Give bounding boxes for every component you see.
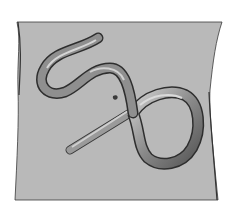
abdomen-illustration: Medical illustration of an abdomen with …	[0, 0, 230, 211]
illustration-svg	[0, 0, 230, 211]
